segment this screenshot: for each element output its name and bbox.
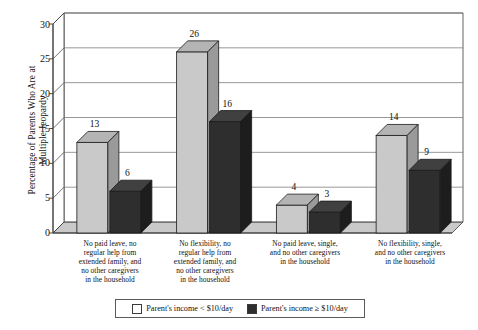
bar-value-label: 4: [292, 182, 297, 192]
bar-value-label: 6: [125, 168, 130, 178]
legend-swatch-dark-icon: [247, 304, 257, 314]
bar-side-face: [440, 159, 451, 233]
bar-front-face: [376, 135, 407, 233]
legend-item-low-income: Parent's income < $10/day: [132, 304, 233, 314]
legend-item-high-income: Parent's income ≥ $10/day: [247, 304, 348, 314]
bar-front-face: [77, 142, 108, 233]
bar-side-face: [241, 111, 252, 233]
bar-front-face: [110, 191, 141, 233]
x-category-label-1: No paid leave, no regular help from exte…: [57, 240, 163, 285]
bar-high-income-cat2: [210, 111, 252, 233]
legend-label-low-income: Parent's income < $10/day: [146, 304, 233, 313]
bar-front-face: [409, 170, 440, 233]
chart-legend: Parent's income < $10/day Parent's incom…: [115, 299, 365, 318]
x-category-label-4: No flexibility, single, and no other car…: [353, 240, 467, 267]
bar-value-label: 13: [90, 119, 100, 129]
bar-front-face: [210, 122, 241, 233]
bar-high-income-cat4: [409, 159, 451, 233]
x-category-label-2: No flexibility, no regular help from ext…: [152, 240, 258, 285]
bar-front-face: [177, 52, 208, 233]
bar-front-face: [276, 205, 307, 233]
bar-value-label: 16: [222, 99, 232, 109]
x-category-label-3: No paid leave, single, and no other care…: [249, 240, 361, 267]
bar-front-face: [309, 212, 340, 233]
legend-swatch-light-icon: [132, 304, 142, 314]
bar-chart-figure: Percentage of Parents Who Are at Multipl…: [0, 0, 478, 330]
bar-high-income-cat3: [309, 201, 351, 233]
legend-label-high-income: Parent's income ≥ $10/day: [261, 304, 348, 313]
bar-value-label: 9: [424, 147, 429, 157]
bar-value-label: 3: [325, 189, 330, 199]
bar-value-label: 14: [389, 112, 399, 122]
bar-value-label: 26: [189, 29, 199, 39]
bar-high-income-cat1: [110, 180, 152, 233]
